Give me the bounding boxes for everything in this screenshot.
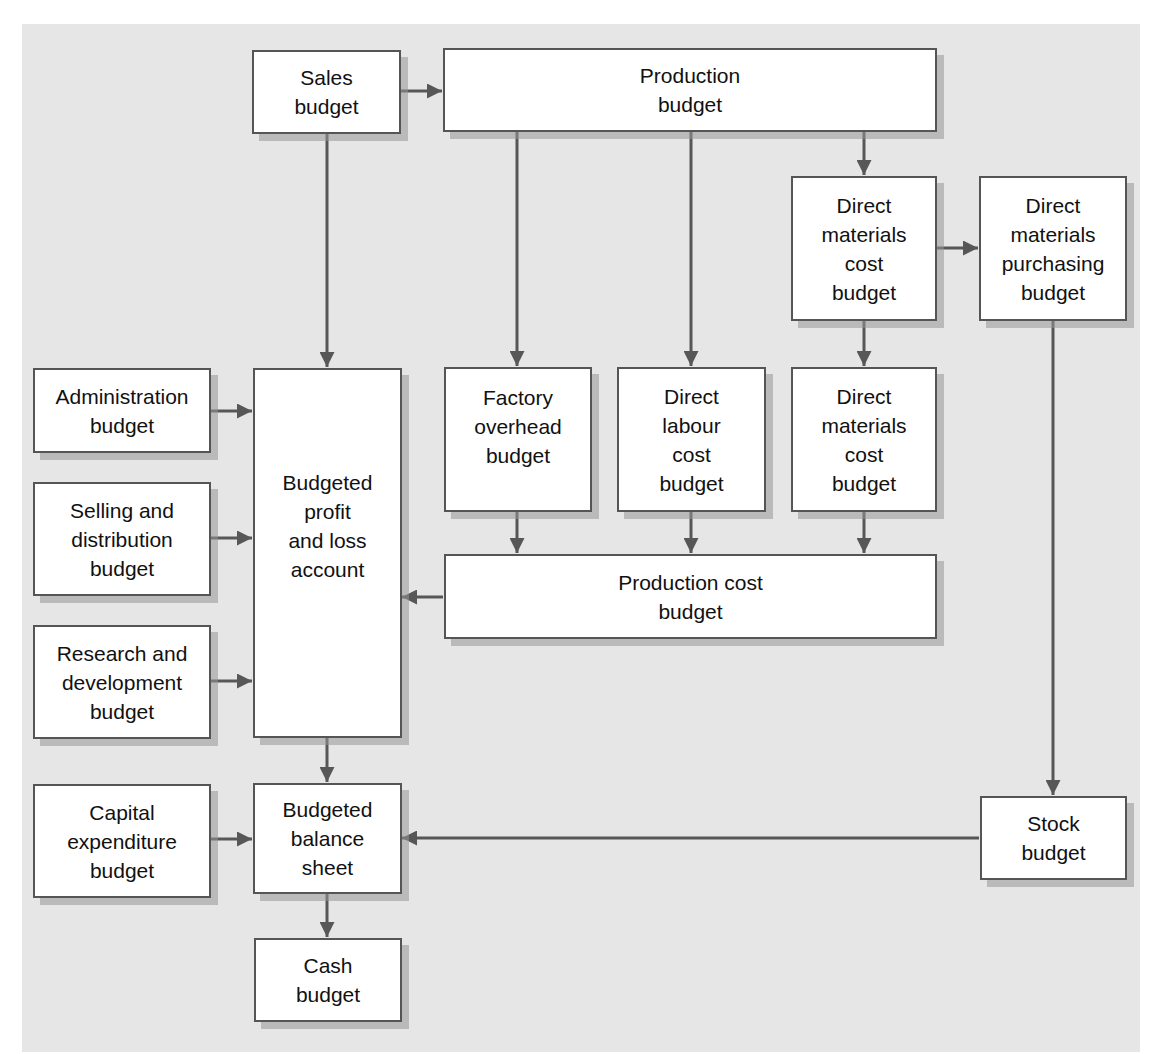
node-cash-budget: Cash budget: [254, 938, 402, 1022]
node-direct-materials-cost-budget-upper: Direct materials cost budget: [791, 176, 937, 321]
node-administration-budget: Administration budget: [33, 368, 211, 453]
node-direct-labour-cost-budget: Direct labour cost budget: [617, 367, 766, 512]
node-direct-materials-cost-budget-lower: Direct materials cost budget: [791, 367, 937, 512]
node-production-cost-budget: Production cost budget: [444, 554, 937, 639]
node-direct-materials-purchasing-budget: Direct materials purchasing budget: [979, 176, 1127, 321]
node-sales-budget: Sales budget: [252, 50, 401, 134]
node-budgeted-balance-sheet: Budgeted balance sheet: [253, 783, 402, 894]
node-factory-overhead-budget: Factory overhead budget: [444, 367, 592, 512]
node-budgeted-profit-loss-account: Budgeted profit and loss account: [253, 368, 402, 738]
node-selling-distribution-budget: Selling and distribution budget: [33, 482, 211, 596]
node-capital-expenditure-budget: Capital expenditure budget: [33, 784, 211, 898]
node-research-development-budget: Research and development budget: [33, 625, 211, 739]
node-stock-budget: Stock budget: [980, 796, 1127, 880]
node-production-budget: Production budget: [443, 48, 937, 132]
